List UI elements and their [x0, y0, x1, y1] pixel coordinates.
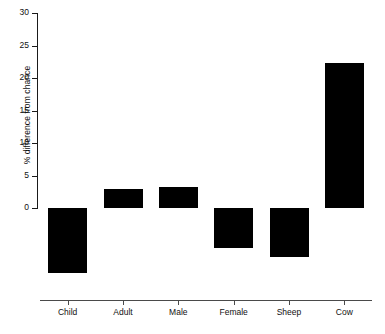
bar-male	[159, 187, 198, 208]
y-tick-label: 15	[3, 106, 29, 115]
x-tick-mark	[344, 300, 345, 305]
bar-child	[48, 208, 87, 273]
y-tick-label: 10	[3, 138, 29, 147]
x-tick-label-cow: Cow	[304, 307, 384, 317]
x-tick-mark	[289, 300, 290, 305]
x-tick-mark	[234, 300, 235, 305]
x-tick-mark	[68, 300, 69, 305]
x-tick-mark	[123, 300, 124, 305]
plot-area	[37, 13, 377, 209]
bar-chart: % difference from chance 051015202530 Ch…	[0, 0, 385, 334]
x-tick-mark	[178, 300, 179, 305]
bar-cow	[325, 63, 364, 208]
y-tick-label: 30	[3, 8, 29, 17]
y-tick-label: 0	[3, 203, 29, 212]
y-tick-label: 25	[3, 41, 29, 50]
y-tick-label: 5	[3, 171, 29, 180]
y-axis-title: % difference from chance	[20, 5, 34, 225]
bar-adult	[104, 189, 143, 209]
bar-sheep	[270, 208, 309, 257]
x-axis-line	[40, 300, 372, 301]
y-tick-label: 20	[3, 73, 29, 82]
bar-female	[214, 208, 253, 248]
